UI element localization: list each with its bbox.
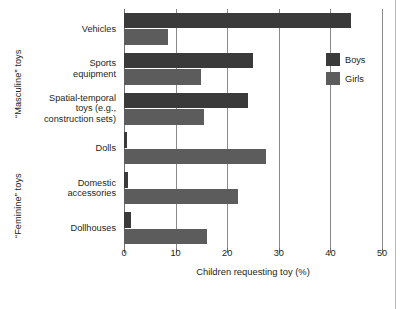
page-right-rule (395, 0, 396, 309)
category-label-1: Sportsequipment (4, 58, 116, 79)
category-label-line: construction sets) (4, 114, 116, 125)
bar-boys-0 (124, 13, 351, 29)
category-label-5: Dollhouses (4, 223, 116, 234)
bar-girls-5 (124, 229, 207, 245)
legend-label-girls: Girls (345, 74, 364, 84)
gridline-50 (382, 9, 383, 248)
x-tick-label-0: 0 (121, 248, 126, 258)
category-label-4: Domesticaccessories (4, 178, 116, 199)
category-label-line: Domestic (4, 178, 116, 189)
gridline-40 (330, 9, 331, 248)
category-label-3: Dolls (4, 143, 116, 154)
bar-boys-4 (124, 172, 128, 188)
bar-girls-2 (124, 109, 204, 125)
plot-area (124, 9, 382, 248)
gridline-30 (279, 9, 280, 248)
gridline-10 (176, 9, 177, 248)
bar-girls-3 (124, 149, 266, 165)
chart-legend: Boys Girls (326, 50, 365, 88)
legend-swatch-girls-icon (326, 72, 340, 85)
legend-label-boys: Boys (345, 55, 365, 65)
bar-boys-2 (124, 93, 248, 109)
category-label-0: Vehicles (4, 24, 116, 35)
legend-swatch-boys-icon (326, 53, 340, 66)
category-label-line: Sports (4, 58, 116, 69)
legend-item-girls: Girls (326, 69, 365, 88)
category-label-line: Dollhouses (4, 223, 116, 234)
bar-girls-1 (124, 69, 201, 85)
legend-item-boys: Boys (326, 50, 365, 69)
category-label-line: Spatial-temporal (4, 93, 116, 104)
chart-figure: “Masculine” toys “Feminine” toys Vehicle… (0, 0, 404, 309)
x-tick-label-20: 20 (222, 248, 232, 258)
category-label-line: equipment (4, 69, 116, 80)
x-tick-label-50: 50 (377, 248, 387, 258)
bar-boys-3 (124, 132, 127, 148)
category-label-2: Spatial-temporaltoys (e.g.,construction … (4, 93, 116, 125)
category-label-line: Vehicles (4, 24, 116, 35)
x-tick-label-10: 10 (170, 248, 180, 258)
bar-girls-0 (124, 29, 168, 45)
category-label-line: Dolls (4, 143, 116, 154)
bar-boys-5 (124, 212, 131, 228)
x-axis-title: Children requesting toy (%) (124, 266, 382, 277)
category-axis-labels: VehiclesSportsequipmentSpatial-temporalt… (0, 0, 116, 248)
category-label-line: toys (e.g., (4, 103, 116, 114)
gridline-20 (227, 9, 228, 248)
bar-girls-4 (124, 189, 238, 205)
x-tick-label-30: 30 (274, 248, 284, 258)
category-label-line: accessories (4, 188, 116, 199)
bar-boys-1 (124, 53, 253, 69)
x-tick-label-40: 40 (325, 248, 335, 258)
